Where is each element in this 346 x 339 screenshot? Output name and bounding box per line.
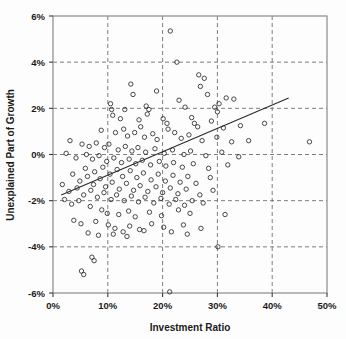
- y-tick-label: 4%: [31, 57, 45, 68]
- y-tick-label: -6%: [28, 288, 45, 299]
- scatter-plot-figure: 0%10%20%30%40%50% -6%-4%-2%0%2%4%6% Inve…: [0, 0, 346, 339]
- y-tick-label: -4%: [28, 241, 45, 252]
- y-tick-label: 0%: [31, 149, 45, 160]
- x-tick-label: 10%: [98, 300, 118, 311]
- x-tick-label: 50%: [317, 300, 337, 311]
- y-tick-label: -2%: [28, 195, 45, 206]
- x-tick-label: 20%: [153, 300, 173, 311]
- chart-background: [0, 0, 346, 339]
- x-tick-label: 0%: [46, 300, 60, 311]
- chart-canvas: 0%10%20%30%40%50% -6%-4%-2%0%2%4%6% Inve…: [0, 0, 346, 339]
- y-axis-title: Unexplained Part of Growth: [5, 89, 16, 221]
- y-tick-label: 2%: [31, 103, 45, 114]
- x-axis-title: Investment Ratio: [150, 322, 231, 333]
- y-tick-label: 6%: [31, 11, 45, 22]
- x-tick-label: 40%: [263, 300, 283, 311]
- x-tick-label: 30%: [208, 300, 228, 311]
